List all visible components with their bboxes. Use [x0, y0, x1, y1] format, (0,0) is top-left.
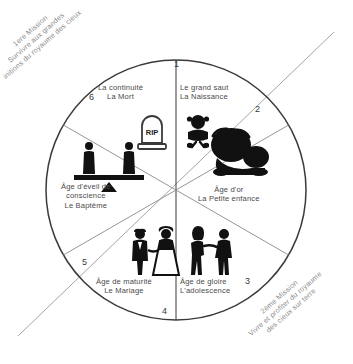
- sector-1-label: Le grand saut La Naissance: [180, 83, 228, 102]
- sector-number-3: 3: [245, 276, 250, 286]
- sector-6-title: La continuité: [98, 83, 143, 92]
- gravestone-icon: RIP: [138, 116, 166, 149]
- sector-4-subtitle: Le Mariage: [96, 286, 152, 295]
- sector-2-label: Âge d'or La Petite enfance: [198, 185, 260, 204]
- sector-6-subtitle: La Mort: [98, 92, 143, 101]
- sector-number-6: 6: [89, 92, 94, 102]
- sector-4-title: Âge de maturité: [96, 277, 152, 286]
- sector-3-subtitle: L'adolescence: [180, 286, 230, 295]
- sector-5-title: Âge d'éveil de: [61, 182, 111, 191]
- sector-2-subtitle: La Petite enfance: [198, 194, 260, 203]
- sector-5-subtitle2: Le Baptême: [61, 201, 111, 210]
- sector-number-5: 5: [82, 257, 87, 267]
- sector-number-2: 2: [255, 104, 260, 114]
- sector-number-1: 1: [174, 59, 179, 69]
- toddler-icon: [211, 128, 269, 176]
- sector-5-subtitle: conscience: [61, 191, 111, 200]
- sector-2-title: Âge d'or: [198, 185, 260, 194]
- svg-text:RIP: RIP: [146, 128, 159, 137]
- wheel-graphic: RIP: [0, 0, 353, 364]
- sector-4-label: Âge de maturité Le Mariage: [96, 277, 152, 296]
- sector-3-title: Âge de gloire: [180, 277, 230, 286]
- baby-icon: [187, 115, 209, 148]
- sector-5-label: Âge d'éveil de conscience Le Baptême: [61, 182, 111, 210]
- diagram-canvas: RIP: [0, 0, 353, 364]
- sector-1-title: Le grand saut: [180, 83, 228, 92]
- sector-number-4: 4: [162, 306, 167, 316]
- sector-3-label: Âge de gloire L'adolescence: [180, 277, 230, 296]
- wedding-couple-icon: [132, 226, 179, 275]
- teenagers-icon: [191, 226, 232, 275]
- sector-1-subtitle: La Naissance: [180, 92, 228, 101]
- sector-6-label: La continuité La Mort: [98, 83, 143, 102]
